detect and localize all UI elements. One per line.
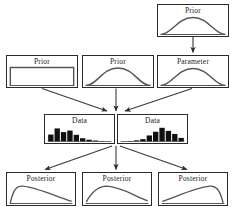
- hyperprior-normal-curve: [160, 15, 226, 35]
- posterior-middle-curve: [85, 183, 149, 204]
- data-right-histogram: [120, 125, 185, 142]
- node-data-left-label: Data: [45, 116, 114, 125]
- edge-data-to-posterior-left: [45, 146, 112, 170]
- node-prior-uniform-label: Prior: [7, 57, 77, 66]
- node-posterior-left[interactable]: Posterior: [6, 172, 76, 206]
- posterior-left-curve: [9, 183, 73, 204]
- prior-normal-curve: [85, 66, 151, 86]
- node-posterior-right[interactable]: Posterior: [158, 172, 228, 206]
- edge-parameter-to-data: [125, 89, 192, 112]
- bayesian-model-diagram: Prior Prior Prior Parameter: [0, 0, 234, 211]
- edge-data-to-posterior-right: [120, 146, 187, 170]
- node-data-right-label: Data: [118, 116, 187, 125]
- node-posterior-left-label: Posterior: [7, 174, 75, 183]
- node-posterior-middle[interactable]: Posterior: [82, 172, 152, 206]
- node-posterior-middle-label: Posterior: [83, 174, 151, 183]
- node-prior-normal-label: Prior: [83, 57, 153, 66]
- posterior-right-curve: [161, 183, 225, 204]
- parameter-normal-curve: [160, 66, 226, 86]
- node-prior-normal[interactable]: Prior: [82, 55, 154, 88]
- node-posterior-right-label: Posterior: [159, 174, 227, 183]
- node-prior-uniform[interactable]: Prior: [6, 55, 78, 88]
- node-hyperprior[interactable]: Prior: [157, 4, 229, 37]
- edge-prior-uniform-to-data: [42, 89, 107, 112]
- prior-uniform-curve: [9, 66, 75, 86]
- data-left-histogram: [47, 125, 112, 142]
- node-data-right[interactable]: Data: [117, 114, 188, 144]
- node-hyperprior-label: Prior: [158, 6, 228, 15]
- node-parameter[interactable]: Parameter: [157, 55, 229, 88]
- node-data-left[interactable]: Data: [44, 114, 115, 144]
- node-parameter-label: Parameter: [158, 57, 228, 66]
